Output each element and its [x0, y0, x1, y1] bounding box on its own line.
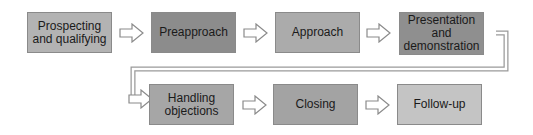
- arrow-right-icon: [366, 23, 392, 43]
- step-closing: Closing: [273, 84, 358, 125]
- arrow-right-icon: [243, 23, 269, 43]
- arrow-right-icon: [119, 23, 145, 43]
- step-prospecting: Prospectingand qualifying: [27, 12, 112, 53]
- step-approach: Approach: [275, 12, 360, 53]
- arrow-right-icon: [365, 95, 391, 115]
- arrow-right-icon: [242, 95, 268, 115]
- step-handling-objections: Handlingobjections: [149, 84, 234, 125]
- step-preapproach: Preapproach: [151, 12, 236, 53]
- step-presentation: Presentationanddemonstration: [399, 12, 484, 55]
- step-follow-up: Follow-up: [397, 84, 482, 125]
